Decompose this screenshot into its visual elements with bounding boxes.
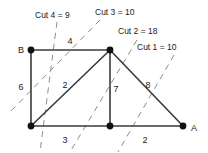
node-top-middle	[107, 47, 114, 54]
edge-weight-B-L: 6	[18, 82, 23, 92]
diagram-canvas: B A 4 6 2 7 8 3 2 Cut 4 = 9 Cut 3 = 10 C…	[0, 0, 208, 153]
node-label-A: A	[191, 123, 197, 133]
node-bottom-middle	[107, 123, 114, 130]
cut-label-cut1: Cut 1 = 10	[137, 42, 177, 52]
cut-line-cut4	[40, 22, 57, 152]
edge-weight-L-T: 2	[62, 80, 67, 90]
graph-edges-group	[31, 50, 183, 126]
edge-weight-T-M: 7	[113, 84, 118, 94]
cut-line-cut3	[8, 20, 100, 114]
node-label-B: B	[18, 45, 24, 55]
cut-label-cut3: Cut 3 = 10	[95, 7, 135, 17]
edge-weight-B-T: 4	[67, 36, 72, 46]
cut-label-cut2: Cut 2 = 18	[118, 26, 158, 36]
cut-label-cut4: Cut 4 = 9	[35, 10, 70, 20]
cut-labels-group: Cut 4 = 9 Cut 3 = 10 Cut 2 = 18 Cut 1 = …	[35, 7, 177, 52]
graph-cut-figure: B A 4 6 2 7 8 3 2 Cut 4 = 9 Cut 3 = 10 C…	[0, 0, 208, 153]
edge-weight-L-M: 3	[62, 135, 67, 145]
edge-weight-T-A: 8	[145, 80, 150, 90]
edge-L-T	[31, 50, 110, 126]
graph-nodes-group	[28, 47, 187, 130]
node-bottom-left	[28, 123, 35, 130]
node-B	[28, 47, 35, 54]
edge-weight-M-A: 2	[142, 135, 147, 145]
node-A	[180, 123, 187, 130]
